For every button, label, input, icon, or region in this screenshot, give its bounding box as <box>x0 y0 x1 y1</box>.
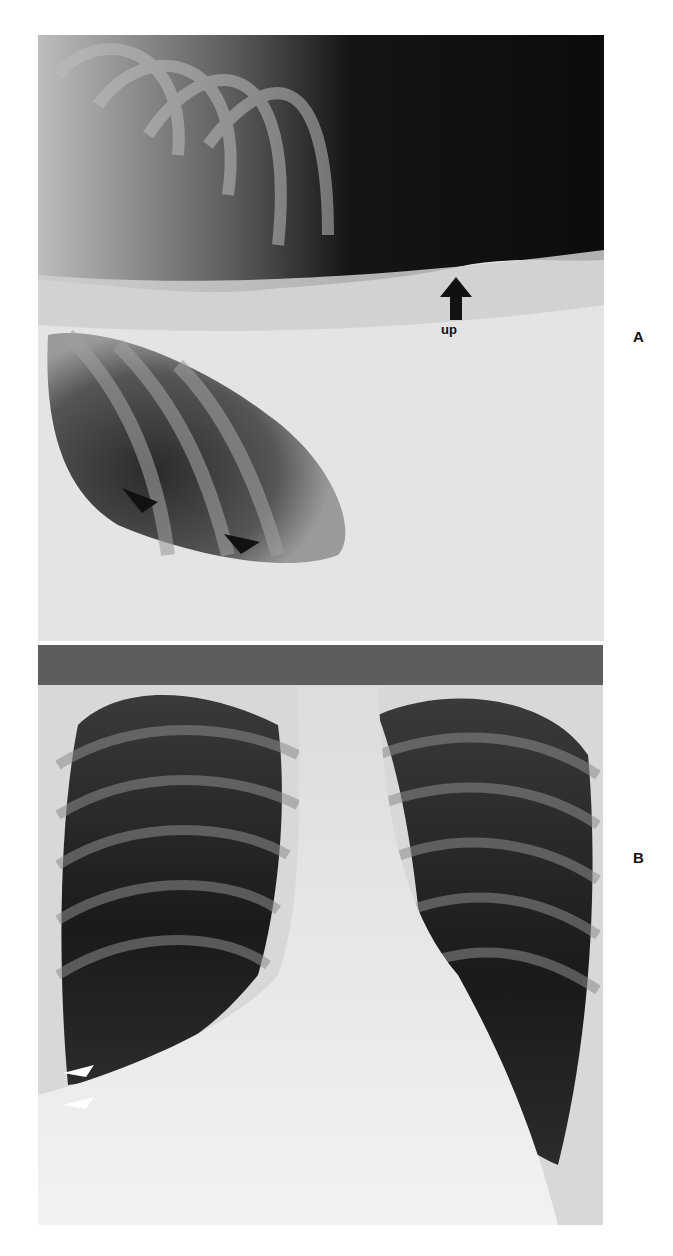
panel-label-a: A <box>633 328 644 345</box>
xray-image-a <box>38 35 604 641</box>
radiograph-panel-a: up <box>38 35 604 641</box>
figure-caption-cutoff <box>0 1250 673 1256</box>
panel-label-b: B <box>633 849 644 866</box>
up-annotation-label: up <box>441 322 457 337</box>
xray-image-b <box>38 645 603 1225</box>
radiograph-panel-b <box>38 645 603 1225</box>
